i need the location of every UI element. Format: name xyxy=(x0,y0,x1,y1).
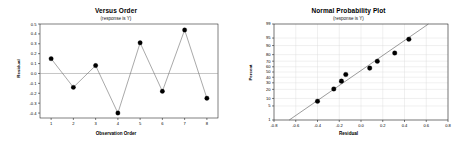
y-tick-label: 90 xyxy=(266,43,271,48)
y-tick-label: 50 xyxy=(266,69,271,74)
x-tick-label: 6 xyxy=(161,121,164,126)
data-point-marker xyxy=(116,111,120,115)
y-tick-label: 0.3 xyxy=(31,41,37,46)
plot-area-versus-order: -0.4-0.3-0.2-0.10.00.10.20.30.40.5123456… xyxy=(0,0,232,147)
y-tick-label: 60 xyxy=(266,64,271,69)
data-point-marker xyxy=(375,59,380,64)
data-point-marker xyxy=(49,56,53,60)
residual-series-line xyxy=(51,30,207,113)
plot-frame xyxy=(40,24,218,118)
y-tick-label: 10 xyxy=(266,96,271,101)
data-point-marker xyxy=(392,51,397,56)
x-tick-label: 4 xyxy=(117,121,120,126)
plot-area-normal-probability: 151020304050607080909599-0.8-0.6-0.4-0.2… xyxy=(232,0,465,147)
x-tick-label: 0.8 xyxy=(445,123,451,128)
chart-panel-versus-order: Versus Order (response is Y) Residual Ob… xyxy=(0,0,232,147)
y-tick-label: 99 xyxy=(266,21,271,26)
x-tick-label: 1 xyxy=(50,121,53,126)
data-point-marker xyxy=(205,96,209,100)
chart-panel-normal-probability: Normal Probability Plot (response is Y) … xyxy=(232,0,465,147)
x-tick-label: 0.4 xyxy=(402,123,408,128)
y-tick-label: 0.4 xyxy=(31,31,37,36)
y-tick-label: 70 xyxy=(266,59,271,64)
x-tick-label: 7 xyxy=(183,121,186,126)
y-tick-label: 40 xyxy=(266,75,271,80)
x-tick-label: -0.6 xyxy=(292,123,300,128)
x-tick-label: 0.6 xyxy=(423,123,429,128)
data-point-marker xyxy=(315,99,320,104)
data-point-marker xyxy=(182,28,186,32)
data-point-marker xyxy=(367,66,372,71)
y-tick-label: -0.3 xyxy=(29,101,37,106)
data-point-marker xyxy=(71,85,75,89)
x-tick-label: 5 xyxy=(139,121,142,126)
data-point-marker xyxy=(93,63,97,67)
y-tick-label: 95 xyxy=(266,35,271,40)
x-tick-label: 2 xyxy=(72,121,75,126)
residual-plots-figure: Versus Order (response is Y) Residual Ob… xyxy=(0,0,465,147)
y-tick-label: 0.2 xyxy=(31,51,37,56)
x-tick-label: 0.0 xyxy=(358,123,364,128)
y-tick-label: 0.1 xyxy=(31,61,37,66)
data-point-marker xyxy=(332,87,337,92)
x-tick-label: -0.4 xyxy=(314,123,322,128)
x-tick-label: -0.8 xyxy=(270,123,278,128)
y-tick-label: 30 xyxy=(266,80,271,85)
x-tick-label: 3 xyxy=(94,121,97,126)
y-tick-label: 5 xyxy=(268,103,271,108)
data-point-marker xyxy=(339,79,344,84)
y-tick-label: 80 xyxy=(266,52,271,57)
y-tick-label: 0.0 xyxy=(31,71,37,76)
y-tick-label: -0.1 xyxy=(29,81,37,86)
y-tick-label: -0.4 xyxy=(29,111,37,116)
x-tick-label: -0.2 xyxy=(336,123,344,128)
data-point-marker xyxy=(160,89,164,93)
data-point-marker xyxy=(343,72,348,77)
y-tick-label: 0.5 xyxy=(31,22,37,27)
x-tick-label: 8 xyxy=(206,121,209,126)
y-tick-label: 20 xyxy=(266,87,271,92)
x-tick-label: 0.2 xyxy=(380,123,386,128)
y-tick-label: 1 xyxy=(268,117,271,122)
y-tick-label: -0.2 xyxy=(29,91,37,96)
data-point-marker xyxy=(407,37,412,42)
data-point-marker xyxy=(138,41,142,45)
